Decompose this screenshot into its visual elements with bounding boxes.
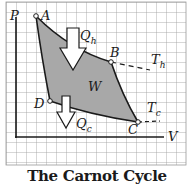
- point-a-marker: [34, 14, 39, 19]
- point-b-label: B: [109, 45, 120, 60]
- work-label: W: [88, 79, 103, 94]
- point-c-label: C: [128, 122, 138, 137]
- point-d-label: D: [33, 96, 45, 111]
- carnot-cycle-diagram: P V Qh Qc W Th Tc A B C D: [0, 0, 194, 168]
- v-axis-label: V: [168, 129, 179, 144]
- point-a-label: A: [40, 8, 50, 23]
- point-d-marker: [48, 99, 53, 104]
- point-b-marker: [109, 60, 114, 65]
- p-axis-label: P: [9, 8, 19, 23]
- diagram-caption: The Carnot Cycle: [0, 167, 194, 185]
